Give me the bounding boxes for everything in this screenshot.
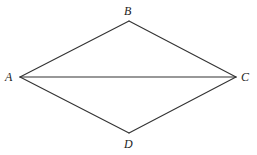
- edge-da: [20, 77, 129, 133]
- geometry-diagram: A B C D: [0, 0, 257, 155]
- edges: [20, 21, 236, 133]
- vertex-label-b: B: [124, 4, 132, 18]
- vertex-label-a: A: [4, 70, 13, 84]
- edge-ab: [20, 21, 129, 77]
- vertex-label-d: D: [123, 137, 133, 151]
- edge-cd: [129, 77, 236, 133]
- edge-bc: [129, 21, 236, 77]
- vertex-label-c: C: [241, 70, 250, 84]
